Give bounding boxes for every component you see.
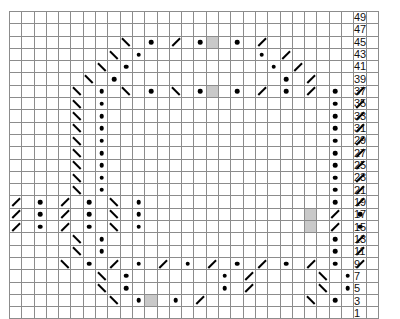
row-number-label: 49 bbox=[352, 11, 398, 23]
cell-empty bbox=[268, 208, 280, 220]
decrease-right-icon bbox=[194, 295, 205, 306]
cell-empty bbox=[206, 221, 218, 233]
cell-empty bbox=[132, 245, 144, 257]
cell-empty bbox=[292, 221, 304, 233]
cell-decrease bbox=[71, 159, 83, 171]
cell-empty bbox=[108, 147, 120, 159]
cell-empty bbox=[46, 208, 58, 220]
cell-empty bbox=[34, 36, 46, 48]
cell-decrease bbox=[169, 36, 181, 48]
cell-empty bbox=[280, 196, 292, 208]
cell-empty bbox=[280, 24, 292, 36]
cell-empty bbox=[255, 171, 267, 183]
cell-purl bbox=[329, 110, 341, 122]
cell-empty bbox=[34, 307, 46, 319]
cell-empty bbox=[46, 61, 58, 73]
cell-empty bbox=[157, 73, 169, 85]
decrease-right-icon bbox=[158, 258, 169, 269]
cell-empty bbox=[59, 294, 71, 306]
cell-empty bbox=[231, 122, 243, 134]
cell-empty bbox=[305, 134, 317, 146]
cell-decrease bbox=[96, 282, 108, 294]
cell-empty bbox=[108, 171, 120, 183]
cell-empty bbox=[83, 282, 95, 294]
cell-purl bbox=[329, 134, 341, 146]
purl-dot-icon bbox=[330, 147, 341, 158]
purl-dot-icon bbox=[219, 270, 230, 281]
cell-empty bbox=[46, 24, 58, 36]
cell-empty bbox=[268, 110, 280, 122]
cell-empty bbox=[46, 307, 58, 319]
cell-decrease bbox=[255, 36, 267, 48]
decrease-left-icon bbox=[121, 86, 132, 97]
cell-empty bbox=[34, 73, 46, 85]
cell-purl bbox=[329, 233, 341, 245]
cell-purl bbox=[329, 257, 341, 269]
cell-purl bbox=[132, 221, 144, 233]
cell-empty bbox=[255, 134, 267, 146]
decrease-right-icon bbox=[256, 37, 267, 48]
chart-row bbox=[10, 196, 379, 208]
cell-empty bbox=[219, 307, 231, 319]
cell-decrease bbox=[280, 48, 292, 60]
purl-dot-icon bbox=[35, 209, 46, 220]
cell-empty bbox=[145, 196, 157, 208]
cell-empty bbox=[268, 24, 280, 36]
cell-empty bbox=[219, 159, 231, 171]
cell-empty bbox=[145, 98, 157, 110]
cell-empty bbox=[46, 36, 58, 48]
cell-empty bbox=[243, 294, 255, 306]
chart-row bbox=[10, 122, 379, 134]
cell-decrease bbox=[157, 257, 169, 269]
cell-empty bbox=[206, 24, 218, 36]
cell-empty bbox=[182, 24, 194, 36]
decrease-right-icon bbox=[10, 196, 21, 207]
cell-empty bbox=[169, 221, 181, 233]
cell-empty bbox=[194, 257, 206, 269]
decrease-right-icon bbox=[305, 258, 316, 269]
cell-empty bbox=[169, 122, 181, 134]
cell-empty bbox=[46, 73, 58, 85]
cell-purl bbox=[231, 85, 243, 97]
cell-empty bbox=[219, 208, 231, 220]
cell-empty bbox=[305, 282, 317, 294]
cell-purl bbox=[83, 196, 95, 208]
cell-empty bbox=[132, 282, 144, 294]
cell-empty bbox=[157, 110, 169, 122]
cell-empty bbox=[317, 196, 329, 208]
cell-empty bbox=[305, 98, 317, 110]
purl-dot-icon bbox=[330, 258, 341, 269]
purl-dot-icon bbox=[96, 172, 107, 183]
purl-dot-icon bbox=[96, 123, 107, 134]
decrease-right-icon bbox=[256, 86, 267, 97]
purl-dot-icon bbox=[268, 61, 279, 72]
purl-dot-icon bbox=[182, 258, 193, 269]
cell-empty bbox=[108, 12, 120, 24]
cell-empty bbox=[145, 245, 157, 257]
cell-shaded bbox=[305, 221, 317, 233]
cell-empty bbox=[83, 294, 95, 306]
cell-empty bbox=[59, 245, 71, 257]
cell-empty bbox=[169, 110, 181, 122]
row-number-label: 15 bbox=[352, 221, 398, 233]
cell-empty bbox=[182, 147, 194, 159]
cell-empty bbox=[317, 98, 329, 110]
cell-empty bbox=[243, 85, 255, 97]
decrease-right-icon bbox=[207, 258, 218, 269]
cell-empty bbox=[120, 171, 132, 183]
cell-empty bbox=[194, 221, 206, 233]
cell-empty bbox=[108, 61, 120, 73]
cell-empty bbox=[46, 171, 58, 183]
purl-dot-icon bbox=[96, 160, 107, 171]
chart-row bbox=[10, 24, 379, 36]
cell-empty bbox=[34, 233, 46, 245]
cell-empty bbox=[182, 110, 194, 122]
cell-empty bbox=[243, 98, 255, 110]
cell-empty bbox=[59, 98, 71, 110]
cell-empty bbox=[268, 307, 280, 319]
cell-empty bbox=[22, 134, 34, 146]
cell-empty bbox=[317, 184, 329, 196]
cell-empty bbox=[292, 147, 304, 159]
row-number-label: 19 bbox=[352, 196, 398, 208]
cell-empty bbox=[317, 294, 329, 306]
